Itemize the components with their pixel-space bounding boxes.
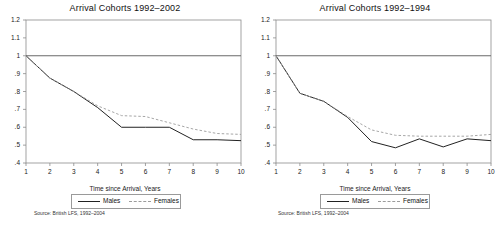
x-axis-tick-label: 9: [462, 168, 472, 175]
x-axis-tick-label: 3: [319, 168, 329, 175]
x-axis-tick-label: 4: [343, 168, 353, 175]
legend-swatch-males-icon: [78, 201, 100, 202]
legend-swatch-females-icon: [378, 201, 400, 202]
series-line-males: [26, 56, 241, 141]
source-note-left: Source: British LFS, 1992–2004: [34, 210, 105, 216]
x-axis-tick-label: 1: [271, 168, 281, 175]
y-axis-tick-label: .8: [2, 88, 20, 95]
legend-label-males: Males: [103, 197, 120, 204]
x-axis-tick-label: 9: [212, 168, 222, 175]
y-axis-tick-label: .8: [252, 88, 270, 95]
figure-canvas: Arrival Cohorts 1992–2002 1.21.11.9.8.7.…: [0, 0, 500, 228]
x-axis-tick-label: 4: [93, 168, 103, 175]
y-axis-tick-label: 1: [2, 52, 20, 59]
x-axis-title-right: Time since Arrival, Years: [250, 185, 500, 192]
x-axis-tick-label: 1: [21, 168, 31, 175]
x-axis-tick-label: 3: [69, 168, 79, 175]
legend-label-males: Males: [352, 197, 369, 204]
x-axis-tick-label: 7: [414, 168, 424, 175]
y-axis-tick-label: 1.1: [2, 34, 20, 41]
y-axis-tick-label: .4: [2, 159, 20, 166]
x-axis-tick-label: 10: [236, 168, 246, 175]
y-axis-tick-label: .5: [2, 141, 20, 148]
y-axis-tick-label: .7: [252, 105, 270, 112]
legend-label-females: Females: [154, 197, 179, 204]
x-axis-tick-label: 8: [438, 168, 448, 175]
y-axis-tick-label: 1: [252, 52, 270, 59]
x-axis-tick-label: 6: [140, 168, 150, 175]
y-axis-tick-label: 1.2: [2, 16, 20, 23]
source-note-right: Source: British LFS, 1992–2004: [278, 210, 349, 216]
x-axis-tick-label: 5: [367, 168, 377, 175]
x-axis-tick-label: 7: [164, 168, 174, 175]
x-axis-tick-label: 2: [45, 168, 55, 175]
y-axis-tick-label: .4: [252, 159, 270, 166]
x-axis-tick-label: 6: [390, 168, 400, 175]
chart-panel-right: Arrival Cohorts 1992–1994 1.21.11.9.8.7.…: [250, 0, 500, 228]
series-line-females: [26, 56, 241, 135]
legend-swatch-males-icon: [327, 201, 349, 202]
x-axis-tick-label: 5: [117, 168, 127, 175]
legend-swatch-females-icon: [129, 201, 151, 202]
y-axis-tick-label: .6: [252, 123, 270, 130]
y-axis-tick-label: .5: [252, 141, 270, 148]
chart-panel-left: Arrival Cohorts 1992–2002 1.21.11.9.8.7.…: [0, 0, 250, 228]
x-axis-tick-label: 8: [188, 168, 198, 175]
x-axis-title-left: Time since Arrival, Years: [0, 185, 250, 192]
y-axis-tick-label: .6: [2, 123, 20, 130]
y-axis-tick-label: .7: [2, 105, 20, 112]
x-axis-tick-label: 2: [295, 168, 305, 175]
y-axis-tick-label: 1.1: [252, 34, 270, 41]
series-line-males: [276, 56, 491, 148]
x-axis-tick-label: 10: [486, 168, 496, 175]
legend-left: Males Females: [71, 194, 181, 209]
legend-right: Males Females: [320, 194, 430, 209]
legend-label-females: Females: [403, 197, 428, 204]
y-axis-tick-label: 1.2: [252, 16, 270, 23]
y-axis-tick-label: .9: [252, 70, 270, 77]
y-axis-tick-label: .9: [2, 70, 20, 77]
